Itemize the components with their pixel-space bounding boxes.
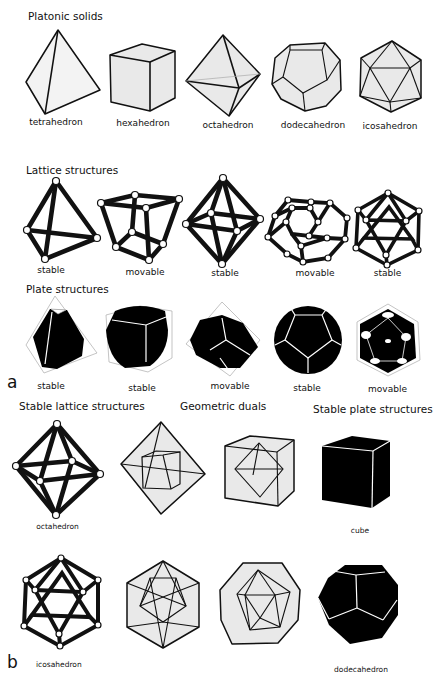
panel-b-letter: b — [7, 652, 18, 672]
stable-plate-dodecahedron-figure — [0, 0, 439, 660]
label-stable-lattice-icosahedron: icosahedron — [36, 660, 81, 669]
label-stable-plate-dodecahedron: dodecahedron — [331, 665, 391, 674]
